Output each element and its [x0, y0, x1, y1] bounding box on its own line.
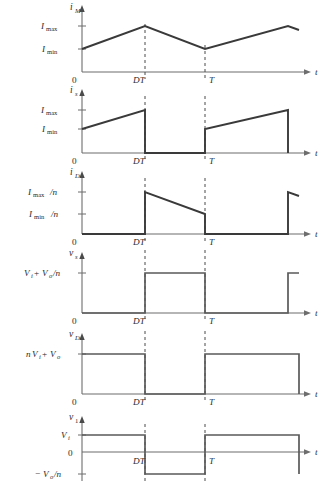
axis-label-i-m: i [70, 1, 73, 12]
marker-label-t: T [209, 397, 215, 407]
marker-label-dt: DT [132, 75, 146, 85]
axis-label-v-s-sub: s [75, 253, 78, 260]
ytick-label-vs-level-sub1: i [31, 272, 33, 279]
panel-i-m: i M I max I min 0 DT T t [40, 1, 318, 85]
ytick-label-imax: I [40, 105, 45, 115]
ytick-label-vd-plus: + [42, 349, 47, 359]
waveform-i-s [82, 110, 288, 153]
x-axis-arrow [304, 231, 311, 236]
origin-label: 0 [72, 237, 77, 247]
y-axis-arrow [79, 252, 84, 259]
marker-label-dt: DT [132, 456, 146, 466]
axis-label-v-s: v [69, 247, 74, 258]
ytick-label-vd-n: n [26, 349, 31, 359]
panel-i-d: i D I max /n I min /n 0 DT T t [27, 166, 318, 247]
ytick-label-imax-n-sub: max [33, 191, 45, 198]
ytick-label-zero: 0 [68, 448, 73, 458]
marker-label-dt: DT [132, 397, 146, 407]
ytick-label-vd-vo: V [50, 349, 57, 359]
ytick-label-imin-n-suffix: /n [50, 209, 59, 219]
marker-label-t: T [209, 237, 215, 247]
time-axis-label: t [315, 308, 318, 318]
panel-v-s: v s V i + V o /n 0 DT T t [24, 247, 318, 326]
panel-i-s: i s I max I min 0 DT T t [40, 84, 318, 166]
ytick-label-imin-n: I [28, 209, 33, 219]
waveform-v-1 [82, 435, 299, 474]
ytick-label-imin-n-sub: min [34, 213, 45, 220]
marker-label-dt: DT [132, 156, 146, 166]
x-axis-arrow [304, 150, 311, 155]
ytick-label-vs-plus: + [34, 268, 39, 278]
marker-label-t: T [209, 456, 215, 466]
y-axis-arrow [79, 416, 84, 423]
x-axis-arrow [304, 310, 311, 315]
waveform-v-s [82, 273, 299, 313]
ytick-label-vs-level: V [24, 268, 31, 278]
ytick-label-vs-vo: V [42, 268, 49, 278]
axis-label-i-m-sub: M [74, 7, 81, 14]
marker-label-t: T [209, 156, 215, 166]
axis-label-v-1-sub: 1 [75, 417, 78, 424]
marker-label-t: T [209, 316, 215, 326]
ytick-label-imin: I [41, 44, 46, 54]
origin-label: 0 [72, 316, 77, 326]
ytick-label-vi: V [61, 430, 68, 440]
ytick-label-imax-sub: max [46, 25, 58, 32]
panel-v-1: v 1 V i 0 − V o /n DT T t [35, 411, 318, 481]
axis-label-v-1: v [69, 411, 74, 422]
time-axis-label: t [315, 229, 318, 239]
ytick-label-imin-sub: min [47, 48, 58, 55]
waveform-v-d [82, 354, 299, 394]
y-axis-arrow [79, 89, 84, 96]
ytick-label-imax-n-suffix: /n [49, 187, 58, 197]
axis-label-i-s-sub: s [75, 90, 78, 97]
ytick-label-vs-n: /n [52, 268, 61, 278]
ytick-label-imax-n: I [27, 187, 32, 197]
y-axis-arrow [79, 171, 84, 178]
origin-label: 0 [72, 397, 77, 407]
x-axis-arrow [304, 69, 311, 74]
ytick-label-negvo-n: /n [53, 469, 62, 479]
ytick-label-vd-vo-sub: o [57, 353, 61, 360]
waveform-i-m [82, 26, 299, 49]
waveform-figure: i M I max I min 0 DT T t i s I max I min… [0, 0, 330, 498]
time-axis-label: t [315, 447, 318, 457]
axis-label-i-d: i [70, 166, 73, 177]
marker-label-t: T [209, 75, 215, 85]
ytick-label-imax-sub: max [46, 109, 58, 116]
ytick-label-imin: I [41, 124, 46, 134]
axis-label-v-d: v [69, 328, 74, 339]
marker-label-dt: DT [132, 237, 146, 247]
ytick-label-negvo-minus: − [35, 469, 40, 479]
x-axis-arrow [304, 391, 311, 396]
y-axis-arrow [79, 333, 84, 340]
waveform-i-d [82, 192, 299, 234]
panel-v-d: v D n V i + V o 0 DT T t [26, 328, 318, 407]
ytick-label-imax: I [40, 21, 45, 31]
waveform-svg: i M I max I min 0 DT T t i s I max I min… [0, 0, 330, 498]
origin-label: 0 [72, 75, 77, 85]
ytick-label-vd-vi-sub: i [39, 353, 41, 360]
ytick-label-negvo: V [43, 469, 50, 479]
axis-label-i-d-sub: D [74, 172, 80, 179]
axis-label-i-s: i [70, 84, 73, 95]
marker-label-dt: DT [132, 316, 146, 326]
axis-label-v-d-sub: D [74, 334, 80, 341]
ytick-label-imin-sub: min [47, 128, 58, 135]
x-axis-arrow [304, 449, 311, 454]
time-axis-label: t [315, 389, 318, 399]
time-axis-label: t [315, 67, 318, 77]
time-axis-label: t [315, 148, 318, 158]
ytick-label-vd-vi: V [32, 349, 39, 359]
origin-label: 0 [72, 156, 77, 166]
ytick-label-vi-sub: i [68, 434, 70, 441]
